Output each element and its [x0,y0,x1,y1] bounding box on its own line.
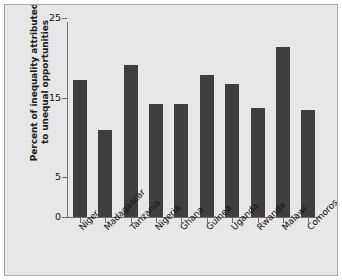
bar [73,80,87,217]
y-tick-label: 5 [41,171,61,182]
bar [301,110,315,217]
y-axis-title: Percent of inequality attributed to uneq… [23,4,57,170]
plot-area: 051525 NigerMadagascarTanzaniaNigeriaGha… [67,18,321,218]
y-tick-label: 0 [41,211,61,222]
bar [174,104,188,217]
chart-figure: Percent of inequality attributed to uneq… [4,4,338,276]
bar [200,75,214,217]
bar [225,84,239,217]
y-tick-label: 25 [41,12,61,23]
y-axis-title-line-2: to unequal opportunities [40,20,50,144]
y-tick [62,217,67,218]
bar [98,130,112,217]
y-axis-title-line-1: Percent of inequality attributed [29,4,39,161]
bar-series [67,18,321,217]
y-tick-label: 15 [41,92,61,103]
bar [276,47,290,217]
